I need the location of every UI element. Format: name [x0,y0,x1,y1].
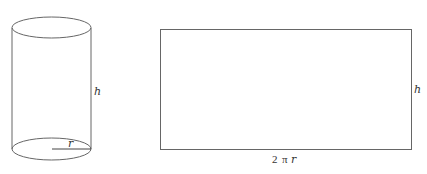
cylinder [12,17,91,160]
unrolled-rectangle [161,30,412,150]
cylinder-height-label: h [94,85,101,98]
cylinder-net-diagram: h r h 2 π r [0,0,427,174]
rectangle-width-label-pi: π [282,153,288,165]
rectangle-height-label: h [414,83,421,96]
cylinder-top-ellipse [12,17,91,38]
diagram-svg: h r h 2 π r [0,0,427,174]
rectangle-width-label-var: r [291,153,297,166]
cylinder-radius-label: r [68,137,74,150]
rectangle-width-label-number: 2 [272,153,278,165]
